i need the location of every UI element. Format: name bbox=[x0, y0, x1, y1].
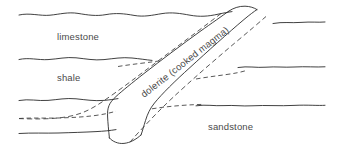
aureole-dashed-line-bottom-left bbox=[19, 111, 116, 118]
label-dolerite: dolerite (cooked magma) bbox=[138, 24, 230, 99]
bedding-line-surface-left bbox=[19, 12, 232, 17]
label-sandstone: sandstone bbox=[208, 121, 253, 132]
bedding-line-surface-right bbox=[273, 22, 325, 24]
label-limestone: limestone bbox=[57, 31, 99, 42]
bedding-line-shale-sandstone-right bbox=[196, 105, 325, 106]
dike-top-cap bbox=[229, 6, 257, 11]
bedding-line-shale-sandstone-left bbox=[19, 99, 118, 101]
label-shale: shale bbox=[57, 72, 80, 83]
aureole-dashed-contact-sandstone bbox=[152, 104, 202, 108]
aureole-dashed-contact-shale-right bbox=[196, 71, 246, 79]
bedding-line-bottom-left bbox=[19, 130, 116, 134]
bedding-line-limestone-shale-left bbox=[19, 58, 152, 61]
aureole-dashed-contact-shale-left bbox=[118, 61, 162, 67]
dike-right-edge bbox=[141, 10, 257, 135]
dike-bottom-tip bbox=[109, 135, 141, 143]
cross-section-canvas: limestone shale sandstone dolerite (cook… bbox=[0, 0, 340, 159]
bedding-line-limestone-shale-right bbox=[238, 67, 325, 68]
geological-cross-section-diagram: limestone shale sandstone dolerite (cook… bbox=[0, 0, 340, 159]
